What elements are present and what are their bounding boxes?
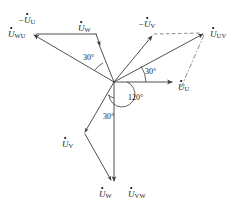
vector-phase-w: [98, 42, 114, 82]
dashed-uv-top-closure: [154, 33, 202, 34]
angle-arc-upper-left-30: [95, 63, 103, 70]
label-phase-u-subscript: U: [185, 85, 190, 92]
angle-label-lower-30: 30°: [103, 113, 114, 121]
label-line-wu-subscript: WU: [15, 32, 26, 39]
label-neg-v: −UV: [138, 20, 155, 30]
label-phase-w: UW: [78, 24, 91, 34]
label-line-vw: UVW: [128, 190, 146, 200]
label-line-wu-symbol: U: [8, 30, 15, 39]
label-phase-w-symbol: U: [78, 24, 85, 33]
label-phase-v-symbol: U: [62, 140, 69, 149]
label-line-uv: UUV: [210, 30, 226, 40]
label-phase-w-subscript: W: [85, 26, 91, 33]
construction-v-to-vw: [85, 134, 111, 180]
label-phase-w-bottom-symbol: U: [99, 190, 106, 199]
vector-line-uv: [114, 34, 203, 82]
label-neg-v-subscript: V: [151, 22, 156, 29]
label-phase-w-bottom-subscript: W: [106, 192, 112, 199]
label-line-vw-subscript: VW: [135, 192, 146, 199]
label-line-uv-symbol: U: [210, 30, 217, 39]
label-neg-u-symbol: U: [24, 16, 31, 25]
label-phase-u-symbol: U: [178, 83, 185, 92]
phasor-diagram-figure: UU UV UW UW −UU −UV UUV UVW UWU 30° 30° …: [0, 0, 242, 215]
label-line-uv-subscript: UV: [217, 32, 227, 39]
angle-label-upper-left-30: 30°: [83, 54, 94, 62]
angle-label-right-30: 30°: [145, 68, 156, 76]
label-line-vw-symbol: U: [128, 190, 135, 199]
label-neg-u: −UU: [18, 16, 35, 26]
vector-neg-u-wu: [34, 35, 114, 82]
label-phase-v: UV: [62, 140, 73, 150]
label-phase-u: UU: [178, 83, 189, 93]
label-neg-u-subscript: U: [31, 18, 36, 25]
vector-phase-v: [85, 82, 114, 132]
label-neg-v-symbol: U: [144, 20, 151, 29]
construction-top-to-w-arrow: [96, 34, 100, 45]
angle-label-center-120: 120°: [128, 94, 143, 102]
label-phase-v-subscript: V: [69, 142, 74, 149]
label-line-wu: UWU: [8, 30, 26, 40]
label-phase-w-bottom: UW: [99, 190, 112, 200]
phasor-vector-canvas: [0, 0, 242, 215]
